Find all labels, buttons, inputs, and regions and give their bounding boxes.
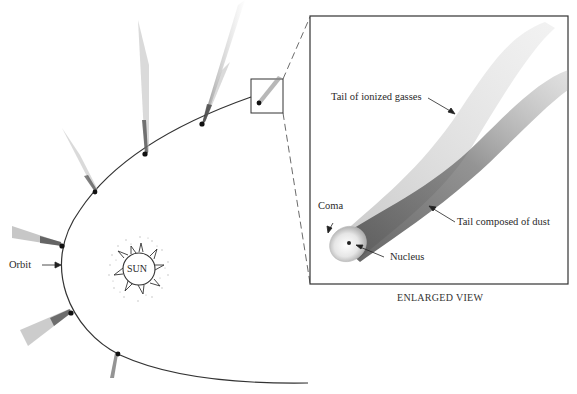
sun-label: SUN: [127, 264, 147, 274]
coma-label: Coma: [318, 201, 343, 212]
enlarged-view-caption: ENLARGED VIEW: [397, 292, 483, 303]
orbit-path: [61, 97, 308, 383]
tail-gas-label: Tail of ionized gasses: [331, 92, 422, 103]
tail-dust-label: Tail composed of dust: [457, 217, 550, 228]
orbit-label: Orbit: [9, 260, 31, 271]
orbit-comets: [12, 0, 245, 378]
comet-diagram: [0, 0, 577, 394]
nucleus-label: Nucleus: [390, 252, 424, 263]
